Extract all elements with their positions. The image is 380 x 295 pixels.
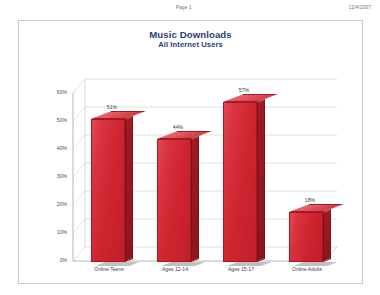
chart-subtitle: All Internet Users: [19, 40, 362, 50]
bar-ages-12-14[interactable]: 44%: [157, 139, 191, 262]
x-tick-label-online-teens: Online Teens: [77, 266, 141, 272]
x-tick-label-ages-15-17: Ages 15-17: [209, 266, 273, 272]
bar-top-face: [157, 131, 212, 139]
bar-value-label: 18%: [289, 197, 331, 203]
bar-side-face: [191, 136, 199, 262]
chart-container: Music Downloads All Internet Users: [18, 20, 363, 284]
bar-front-face: [91, 119, 125, 262]
page-number-label: Page 1: [176, 5, 192, 10]
bar-front-face: [289, 212, 323, 262]
bar-side-face: [257, 99, 265, 262]
bar-top-face: [289, 204, 344, 212]
bar-ages-15-17[interactable]: 57%: [223, 102, 257, 262]
x-tick-label-ages-12-14: Ages 12-14: [143, 266, 207, 272]
bar-front-face: [223, 102, 257, 262]
bar-value-label: 51%: [91, 104, 133, 110]
bars-layer: 51% 44% 57%: [39, 65, 344, 277]
bar-side-face: [323, 209, 331, 262]
bar-online-adults[interactable]: 18%: [289, 212, 323, 262]
chart-title: Music Downloads: [19, 29, 362, 40]
bar-top-face: [91, 111, 146, 119]
bar-online-teens[interactable]: 51%: [91, 119, 125, 262]
bar-front-face: [157, 139, 191, 262]
print-date-label: 12/4/2007: [349, 5, 371, 10]
plot-area: 60% 50% 40% 30% 20% 10% 0% 51% 44%: [39, 65, 344, 277]
chart-title-block: Music Downloads All Internet Users: [19, 29, 362, 50]
x-tick-label-online-adults: Online Adults: [275, 266, 339, 272]
page-header: Page 1 12/4/2007: [0, 0, 380, 18]
bar-top-face: [223, 94, 278, 102]
bar-value-label: 57%: [223, 87, 265, 93]
bar-side-face: [125, 116, 133, 262]
bar-value-label: 44%: [157, 124, 199, 130]
